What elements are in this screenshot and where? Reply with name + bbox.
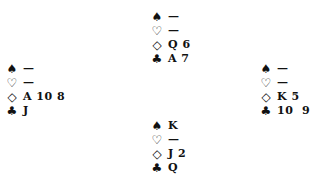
west-clubs: ♣J: [5, 104, 65, 118]
west-hand: ♠— ♡— ◇A 10 8 ♣J: [5, 62, 65, 118]
spade-icon: ♠: [150, 10, 164, 24]
north-hand: ♠— ♡— ◇Q 6 ♣A 7: [150, 10, 191, 66]
north-clubs: ♣A 7: [150, 52, 191, 66]
diamond-icon: ◇: [150, 38, 164, 52]
south-spades: ♠K: [150, 119, 186, 133]
club-icon: ♣: [5, 104, 19, 118]
club-icon: ♣: [150, 161, 164, 175]
west-diamonds: ◇A 10 8: [5, 90, 65, 104]
heart-icon: ♡: [150, 133, 164, 147]
south-diamonds: ◇J 2: [150, 147, 186, 161]
east-diamonds: ◇K 5: [259, 90, 310, 104]
spade-icon: ♠: [150, 119, 164, 133]
west-spades: ♠—: [5, 62, 65, 76]
club-icon: ♣: [259, 104, 273, 118]
south-hand: ♠K ♡— ◇J 2 ♣Q: [150, 119, 186, 175]
heart-icon: ♡: [5, 76, 19, 90]
diamond-icon: ◇: [259, 90, 273, 104]
spade-icon: ♠: [5, 62, 19, 76]
diamond-icon: ◇: [5, 90, 19, 104]
east-spades: ♠—: [259, 62, 310, 76]
diamond-icon: ◇: [150, 147, 164, 161]
north-spades: ♠—: [150, 10, 191, 24]
west-hearts: ♡—: [5, 76, 65, 90]
north-hearts: ♡—: [150, 24, 191, 38]
east-clubs: ♣10 9: [259, 104, 310, 118]
south-clubs: ♣Q: [150, 161, 186, 175]
east-hand: ♠— ♡— ◇K 5 ♣10 9: [259, 62, 310, 118]
north-diamonds: ◇Q 6: [150, 38, 191, 52]
club-icon: ♣: [150, 52, 164, 66]
east-hearts: ♡—: [259, 76, 310, 90]
south-hearts: ♡—: [150, 133, 186, 147]
heart-icon: ♡: [259, 76, 273, 90]
spade-icon: ♠: [259, 62, 273, 76]
heart-icon: ♡: [150, 24, 164, 38]
